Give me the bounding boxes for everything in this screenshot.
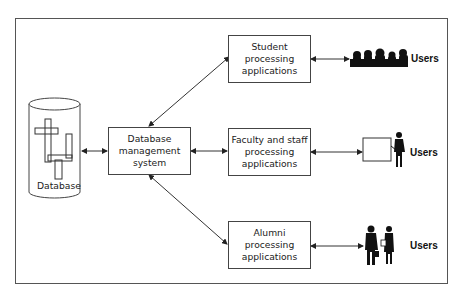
faculty-staff-applications-box: Faculty and staff processing application… — [228, 128, 311, 176]
dbms-box: Database management system — [108, 127, 191, 175]
student-users-label: Users — [411, 53, 439, 64]
faculty-users-label: Users — [410, 147, 438, 158]
student-group-silhouette-icon — [350, 49, 408, 68]
alumni-applications-box: Alumni processing applications — [228, 221, 311, 269]
alumni-users-label: Users — [410, 240, 438, 251]
teacher-at-board-silhouette-icon — [363, 132, 405, 167]
database-label: Database — [37, 180, 81, 191]
student-applications-box: Student processing applications — [228, 35, 311, 83]
business-people-silhouette-icon — [365, 226, 394, 266]
